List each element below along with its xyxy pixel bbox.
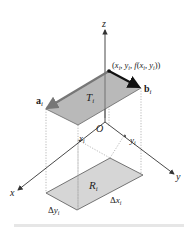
origin-label: O <box>96 123 103 134</box>
vector-b-i-label: bi <box>144 83 152 96</box>
y-axis-label: y <box>175 171 181 182</box>
surface-area-diagram: z x y O (xi, yi, f(xi, yi)) ai bi Ti Ri … <box>0 0 192 227</box>
vector-a-i-label: ai <box>36 95 43 108</box>
surface-point <box>107 69 111 73</box>
point-label: (xi, yi, f(xi, yi)) <box>112 60 160 71</box>
delta-x-i-label: Δxi <box>110 195 122 206</box>
tick-y-i-label: yi <box>129 135 136 146</box>
tick-x-i-label: xi <box>78 133 85 144</box>
x-axis-label: x <box>9 187 15 198</box>
delta-y-i-label: Δyi <box>48 205 60 216</box>
z-axis-label: z <box>101 18 106 29</box>
page-shadow <box>14 224 184 227</box>
tick-y-i-mark <box>124 135 126 137</box>
